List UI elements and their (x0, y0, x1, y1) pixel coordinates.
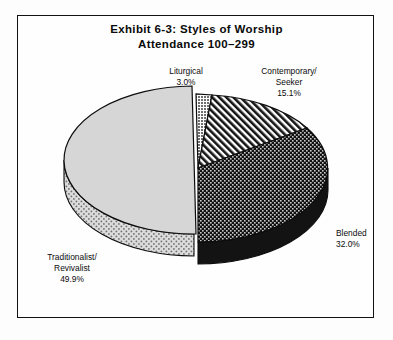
pie-chart-graphic (0, 0, 393, 340)
slice-label-traditionalist-percent: 49.9% (24, 274, 120, 285)
slice-label-liturgical-name: Liturgical (151, 66, 221, 77)
slice-label-liturgical: Liturgical 3.0% (151, 66, 221, 88)
figure-container: Exhibit 6-3: Styles of Worship Attendanc… (0, 0, 393, 340)
slice-label-traditionalist-name-line2: Revivalist (24, 263, 120, 274)
slice-label-contemporary-seeker: Contemporary/ Seeker 15.1% (243, 66, 335, 99)
slice-label-contemporary-name-line2: Seeker (243, 77, 335, 88)
slice-label-contemporary-percent: 15.1% (243, 88, 335, 99)
slice-label-contemporary-name-line1: Contemporary/ (243, 66, 335, 77)
slice-label-blended-percent: 32.0% (336, 239, 392, 250)
slice-label-traditionalist-revivalist: Traditionalist/ Revivalist 49.9% (24, 252, 120, 285)
slice-label-liturgical-percent: 3.0% (151, 77, 221, 88)
slice-label-blended: Blended 32.0% (336, 228, 392, 250)
slice-label-blended-name: Blended (336, 228, 392, 239)
slice-label-traditionalist-name-line1: Traditionalist/ (24, 252, 120, 263)
